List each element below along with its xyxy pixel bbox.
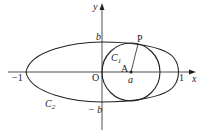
diagram-canvas: y x O −1 1 b − b a P A C1 C2: [0, 0, 204, 134]
tick-neg-b: − b: [88, 104, 102, 115]
tick-one: 1: [179, 72, 184, 83]
tick-b: b: [96, 31, 101, 42]
tick-neg-one: −1: [12, 72, 23, 83]
point-a-label: A: [121, 63, 129, 74]
origin-label: O: [92, 72, 99, 83]
segment-ap: [131, 44, 138, 72]
y-axis-label: y: [92, 1, 98, 12]
circle-c1-subscript: 1: [118, 57, 122, 65]
point-p-label: P: [137, 33, 143, 44]
ellipse-c2-label: C2: [45, 98, 56, 111]
y-axis-arrow-icon: [100, 3, 105, 10]
x-axis-label: x: [191, 73, 197, 84]
tick-a: a: [128, 74, 133, 85]
circle-c1-label: C1: [111, 52, 121, 65]
ellipse-c2-subscript: 2: [52, 103, 56, 111]
